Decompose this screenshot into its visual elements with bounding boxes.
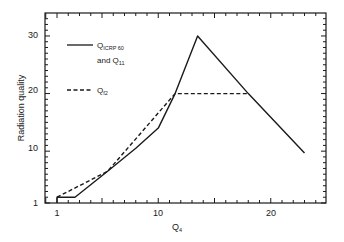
y-tick-20: 20 bbox=[28, 85, 38, 95]
y-tick-10: 10 bbox=[28, 143, 38, 153]
legend: QICRP 60 and Q11 Qf2 bbox=[67, 41, 125, 96]
x-tick-10: 10 bbox=[153, 208, 163, 218]
series-layer bbox=[57, 36, 305, 203]
y-tick-30: 30 bbox=[28, 30, 38, 40]
legend-dashed-label: Qf2 bbox=[97, 86, 108, 96]
y-tick-1: 1 bbox=[33, 198, 38, 208]
series-dashed-line bbox=[57, 94, 248, 198]
plot-frame bbox=[45, 13, 326, 203]
x-tick-1: 1 bbox=[54, 208, 59, 218]
legend-solid-label-line2: and Q11 bbox=[97, 56, 125, 66]
axis-ticks bbox=[45, 13, 326, 203]
x-tick-20: 20 bbox=[266, 208, 276, 218]
x-axis-label: Q4 bbox=[172, 222, 182, 233]
y-axis-label: Radiation quality bbox=[16, 74, 26, 141]
radiation-quality-chart: 30 20 10 1 1 10 20 Radiation quality Q4 … bbox=[0, 0, 344, 242]
legend-solid-label: QICRP 60 bbox=[97, 41, 124, 51]
